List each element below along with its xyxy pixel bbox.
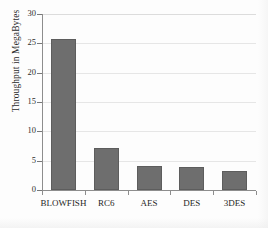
y-axis-tick-labels: 051015202530 xyxy=(14,0,36,228)
x-axis-tick-mark xyxy=(42,191,43,195)
x-axis-tick-label: 3DES xyxy=(195,198,268,209)
x-axis-tick-mark xyxy=(213,191,214,195)
bar-3des xyxy=(222,171,247,190)
y-axis-tick-mark xyxy=(37,131,42,132)
gridline xyxy=(42,14,256,15)
bar-des xyxy=(179,167,204,190)
bar-chart-figure: Throughput in MegaBytes 051015202530 BLO… xyxy=(0,0,268,228)
bar-rc6 xyxy=(94,148,119,190)
y-axis-tick-label: 20 xyxy=(20,68,36,77)
x-axis-tick-mark xyxy=(256,191,257,195)
y-axis-line xyxy=(42,14,43,191)
bar-aes xyxy=(137,166,162,190)
y-axis-tick-label: 25 xyxy=(20,38,36,47)
y-axis-tick-mark xyxy=(37,73,42,74)
bar-blowfish xyxy=(51,39,76,190)
x-axis-tick-mark xyxy=(170,191,171,195)
scan-edge-shadow-right xyxy=(258,0,268,228)
y-axis-tick-mark xyxy=(37,102,42,103)
scan-edge-shadow-bottom xyxy=(0,218,268,228)
y-axis-tick-mark xyxy=(37,161,42,162)
y-axis-tick-mark xyxy=(37,43,42,44)
x-axis-line xyxy=(42,190,256,191)
y-axis-tick-label: 15 xyxy=(20,97,36,106)
y-axis-tick-label: 5 xyxy=(20,156,36,165)
y-axis-tick-label: 0 xyxy=(20,185,36,194)
plot-area xyxy=(42,14,256,190)
y-axis-tick-mark xyxy=(37,14,42,15)
x-axis-tick-mark xyxy=(85,191,86,195)
x-axis-tick-mark xyxy=(128,191,129,195)
y-axis-tick-label: 10 xyxy=(20,126,36,135)
y-axis-tick-label: 30 xyxy=(20,9,36,18)
